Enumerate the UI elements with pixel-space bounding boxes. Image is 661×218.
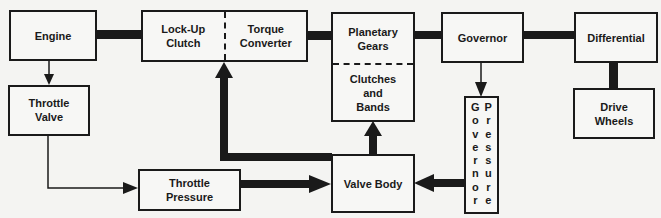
connector-throttlepressure-valvebody [240,180,314,188]
throttle-pressure-label-1: Throttle [169,176,210,190]
connector-valvebody-lockup-v [220,76,228,161]
governor-box: Governor [441,12,524,63]
planetary-gears-label-2: Gears [357,39,388,53]
connector-govpressure-valvebody [432,179,465,187]
letter: v [472,128,478,141]
letter: r [473,154,477,167]
clutches-bands-label-2: and [363,86,383,100]
connector-governor-differential [522,31,575,39]
throttle-valve-box: Throttle Valve [8,85,90,136]
valve-body-box: Valve Body [331,154,415,213]
planetary-gears-label-1: Planetary [348,25,398,39]
arrowhead-down-govpressure [475,82,487,97]
lockup-clutch-section: Lock-Up Clutch [143,12,224,60]
letter: o [472,114,479,127]
connector-engine-lockup [96,30,142,39]
drive-wheels-box: Drive Wheels [573,88,655,139]
engine-label: Engine [35,29,72,43]
letter: n [472,167,479,180]
governor-pressure-col-pressure: P r e s s u r e [485,101,492,207]
governor-pressure-col-governor: G o v e r n o r [471,101,480,207]
differential-label: Differential [587,31,644,45]
letter: o [472,181,479,194]
drive-wheels-label-1: Drive [600,100,628,114]
clutches-bands-section: Clutches and Bands [333,63,413,120]
lockup-clutch-label-2: Clutch [166,36,200,50]
throttle-valve-label-2: Valve [35,110,63,124]
letter: e [472,141,478,154]
letter: r [473,194,477,207]
letter: s [485,154,491,167]
letter: e [485,128,491,141]
torque-converter-section: Torque Converter [224,12,307,60]
connector-throttlevalve-throttlepressure [48,135,126,188]
arrowhead-left-valvebody [414,174,434,192]
arrowhead-down-throttlevalve [44,74,54,85]
letter: G [471,101,480,114]
valve-body-label: Valve Body [344,177,403,191]
connector-valvebody-lockup-h [220,153,332,161]
arrowhead-right-valvebody [309,175,331,193]
torque-converter-label-1: Torque [248,22,284,36]
arrowhead-right-throttlepressure [123,182,138,194]
engine-box: Engine [9,10,97,61]
throttle-pressure-label-2: Pressure [166,190,213,204]
letter: P [485,101,492,114]
connector-planetary-governor [414,31,442,39]
connector-differential-wheels [609,61,618,89]
connector-valvebody-clutches [369,134,377,155]
planetary-gears-section: Planetary Gears [333,14,413,63]
letter: s [485,141,491,154]
differential-box: Differential [574,12,658,63]
clutches-bands-label-3: Bands [356,100,390,114]
lockup-clutch-label-1: Lock-Up [161,22,205,36]
letter: e [485,194,491,207]
planetary-clutches-box: Planetary Gears Clutches and Bands [331,12,415,122]
clutches-bands-label-1: Clutches [350,72,396,86]
torque-converter-label-2: Converter [240,36,292,50]
throttle-pressure-box: Throttle Pressure [138,169,241,211]
letter: u [485,167,492,180]
throttle-valve-label-1: Throttle [29,96,70,110]
arrowhead-up-clutches [364,121,382,136]
connector-torque-planetary [306,31,332,40]
governor-label: Governor [458,31,508,45]
letter: r [486,114,490,127]
lockup-torque-box: Lock-Up Clutch Torque Converter [141,10,308,62]
letter: r [486,181,490,194]
governor-pressure-box: G o v e r n o r P r e s s u r e [464,96,499,214]
arrowhead-up-lockup [215,62,233,78]
drive-wheels-label-2: Wheels [595,114,634,128]
